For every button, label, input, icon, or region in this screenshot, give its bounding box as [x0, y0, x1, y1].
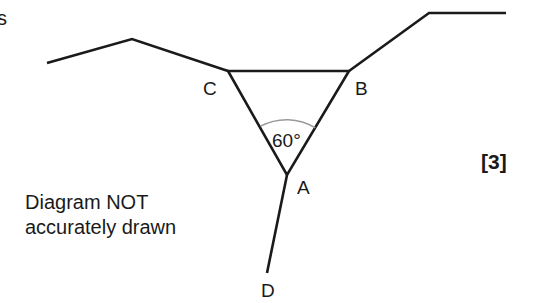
- disclaimer-line-2: accurately drawn: [25, 215, 176, 240]
- marks-label: [3]: [481, 150, 507, 174]
- angle-arc-a: [261, 120, 316, 128]
- disclaimer-line-1: Diagram NOT: [25, 190, 176, 215]
- angle-label: 60°: [272, 131, 301, 150]
- vertex-label-d: D: [261, 281, 275, 300]
- diagram-disclaimer: Diagram NOT accurately drawn: [25, 190, 176, 240]
- vertex-label-c: C: [203, 79, 217, 98]
- vertex-label-b: B: [355, 79, 368, 98]
- left-path-line: [47, 39, 228, 71]
- triangle-abc: [228, 71, 349, 175]
- right-path-line: [349, 13, 506, 71]
- vertex-label-a: A: [297, 178, 310, 197]
- line-ad: [267, 175, 287, 273]
- partial-question-text: s: [0, 7, 7, 30]
- geometry-diagram: [0, 0, 536, 303]
